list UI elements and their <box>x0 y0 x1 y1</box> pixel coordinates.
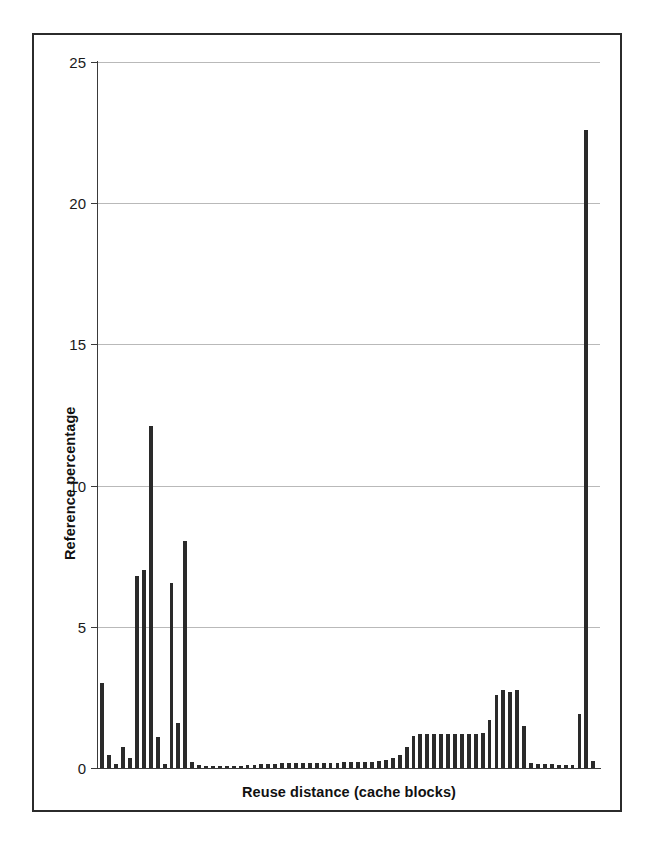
bar <box>301 763 305 768</box>
bar <box>578 714 582 768</box>
y-tick-label: 5 <box>26 620 86 635</box>
y-tick-label: 15 <box>26 337 86 352</box>
bar <box>225 766 229 768</box>
bar <box>246 765 250 768</box>
bar <box>508 692 512 768</box>
bar <box>584 130 588 768</box>
bar <box>190 762 194 768</box>
bar <box>501 690 505 768</box>
bar <box>273 764 277 768</box>
y-tick-0 <box>91 768 98 769</box>
bar <box>218 766 222 768</box>
bar <box>495 695 499 768</box>
bar <box>322 763 326 768</box>
bar <box>121 747 125 768</box>
bar <box>232 766 236 768</box>
bar <box>336 763 340 768</box>
bar <box>211 766 215 768</box>
bar <box>349 762 353 768</box>
y-tick-25 <box>91 62 98 63</box>
bar <box>342 762 346 768</box>
bar <box>253 765 257 768</box>
bar <box>259 764 263 768</box>
y-tick-label: 0 <box>26 761 86 776</box>
bar <box>100 683 104 768</box>
x-axis-line <box>97 768 601 769</box>
bar <box>329 763 333 768</box>
bar <box>391 758 395 768</box>
bar <box>453 734 457 768</box>
bar <box>197 765 201 768</box>
bar <box>488 720 492 768</box>
bar <box>149 426 153 768</box>
y-tick-20 <box>91 203 98 204</box>
bar <box>405 747 409 768</box>
bar <box>315 763 319 768</box>
bar <box>432 734 436 768</box>
bar <box>183 541 187 768</box>
bar <box>107 755 111 768</box>
bar <box>515 690 519 768</box>
bar <box>474 734 478 768</box>
bar <box>467 734 471 768</box>
bar <box>266 764 270 768</box>
bar <box>418 734 422 768</box>
bar <box>308 763 312 768</box>
plot-area <box>98 62 600 768</box>
bar <box>439 734 443 768</box>
bar <box>536 764 540 768</box>
bar <box>356 762 360 768</box>
bar <box>460 734 464 768</box>
bar <box>529 763 533 768</box>
bar <box>128 758 132 768</box>
bar <box>370 762 374 768</box>
bar <box>425 734 429 768</box>
bar <box>170 583 174 768</box>
bar <box>550 764 554 768</box>
bar <box>398 755 402 768</box>
bar <box>384 760 388 768</box>
bar <box>557 765 561 768</box>
bar <box>543 764 547 768</box>
bar <box>280 763 284 768</box>
bar <box>135 576 139 768</box>
bar <box>176 723 180 768</box>
bar <box>481 733 485 768</box>
y-tick-10 <box>91 486 98 487</box>
bar <box>363 762 367 768</box>
bar <box>591 761 595 768</box>
y-tick-label: 20 <box>26 196 86 211</box>
y-tick-5 <box>91 627 98 628</box>
bar <box>522 726 526 768</box>
bar <box>377 761 381 768</box>
y-axis-title: Reference percentage <box>62 406 78 560</box>
y-tick-15 <box>91 344 98 345</box>
figure-page: 0510152025 Reference percentage Reuse di… <box>0 0 654 857</box>
bar <box>163 764 167 768</box>
x-axis-title: Reuse distance (cache blocks) <box>98 784 600 800</box>
bar <box>204 766 208 768</box>
y-tick-label: 25 <box>26 55 86 70</box>
bar <box>156 737 160 768</box>
bar <box>294 763 298 768</box>
bar <box>239 766 243 768</box>
bar <box>287 763 291 768</box>
bar <box>412 736 416 768</box>
bar <box>114 764 118 768</box>
bar <box>142 570 146 768</box>
bar <box>446 734 450 768</box>
bar <box>571 765 575 768</box>
bar <box>564 765 568 768</box>
